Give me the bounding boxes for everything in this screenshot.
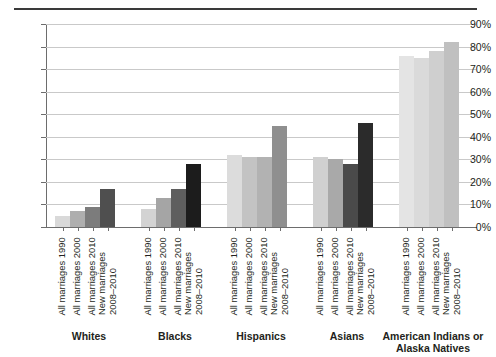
x-label-line: All marriages 1990 bbox=[142, 237, 153, 315]
bar-american_indians-0 bbox=[399, 56, 414, 227]
x-label-hispanics-2: All marriages 2010 bbox=[258, 237, 269, 315]
x-label-line: 2008–2010 bbox=[193, 252, 204, 315]
x-label-line: 2008–2010 bbox=[365, 252, 376, 315]
x-label-hispanics-0: All marriages 1990 bbox=[228, 237, 239, 315]
x-label-line: New marriages bbox=[355, 252, 366, 315]
bar-american_indians-3 bbox=[444, 42, 459, 227]
x-label-line: New marriages bbox=[269, 252, 280, 315]
x-label-line: All marriages 1990 bbox=[400, 237, 411, 315]
bar-american_indians-2 bbox=[429, 51, 444, 227]
y-tick-mark-0 bbox=[41, 227, 46, 228]
x-label-whites-2: All marriages 2010 bbox=[86, 237, 97, 315]
group-label-line: Alaska Natives bbox=[370, 342, 496, 354]
x-label-american_indians-2: All marriages 2010 bbox=[430, 237, 441, 315]
x-label-line: All marriages 2000 bbox=[243, 237, 254, 315]
x-label-line: All marriages 1990 bbox=[314, 237, 325, 315]
x-axis-line bbox=[46, 227, 477, 228]
bar-american_indians-1 bbox=[414, 58, 429, 227]
bar-asians-3 bbox=[358, 123, 373, 227]
x-label-asians-3: New marriages2008–2010 bbox=[355, 252, 376, 315]
bar-hispanics-3 bbox=[272, 126, 287, 228]
x-label-asians-0: All marriages 1990 bbox=[314, 237, 325, 315]
bar-asians-0 bbox=[313, 157, 328, 227]
bar-whites-3 bbox=[100, 189, 115, 227]
bar-hispanics-2 bbox=[257, 157, 272, 227]
x-label-line: New marriages bbox=[97, 252, 108, 315]
x-label-whites-3: New marriages2008–2010 bbox=[97, 252, 118, 315]
bar-whites-1 bbox=[70, 211, 85, 227]
x-label-asians-1: All marriages 2000 bbox=[329, 237, 340, 315]
x-label-american_indians-3: New marriages2008–2010 bbox=[441, 252, 462, 315]
group-label-line: American Indians or bbox=[370, 330, 496, 342]
x-label-blacks-3: New marriages2008–2010 bbox=[183, 252, 204, 315]
bar-whites-2 bbox=[85, 207, 100, 227]
x-label-line: All marriages 2010 bbox=[430, 237, 441, 315]
x-label-line: All marriages 2000 bbox=[329, 237, 340, 315]
x-label-line: 2008–2010 bbox=[451, 252, 462, 315]
bar-blacks-0 bbox=[141, 209, 156, 227]
x-label-line: 2008–2010 bbox=[107, 252, 118, 315]
bar-hispanics-0 bbox=[227, 155, 242, 227]
x-label-line: All marriages 2000 bbox=[71, 237, 82, 315]
x-label-line: All marriages 2010 bbox=[172, 237, 183, 315]
x-label-american_indians-0: All marriages 1990 bbox=[400, 237, 411, 315]
x-label-line: All marriages 1990 bbox=[228, 237, 239, 315]
bar-blacks-2 bbox=[171, 189, 186, 227]
x-label-asians-2: All marriages 2010 bbox=[344, 237, 355, 315]
x-label-line: New marriages bbox=[183, 252, 194, 315]
group-label-american_indians: American Indians orAlaska Natives bbox=[370, 330, 496, 354]
x-label-hispanics-1: All marriages 2000 bbox=[243, 237, 254, 315]
top-divider-rule bbox=[14, 8, 477, 10]
bars-area bbox=[46, 24, 476, 227]
x-label-american_indians-1: All marriages 2000 bbox=[415, 237, 426, 315]
group-labels: WhitesBlacksHispanicsAsiansAmerican Indi… bbox=[0, 330, 491, 357]
x-label-line: All marriages 2010 bbox=[258, 237, 269, 315]
x-label-line: All marriages 2010 bbox=[344, 237, 355, 315]
bar-blacks-1 bbox=[156, 198, 171, 227]
x-label-hispanics-3: New marriages2008–2010 bbox=[269, 252, 290, 315]
x-label-line: 2008–2010 bbox=[279, 252, 290, 315]
x-label-blacks-2: All marriages 2010 bbox=[172, 237, 183, 315]
x-label-line: All marriages 2000 bbox=[415, 237, 426, 315]
bar-blacks-3 bbox=[186, 164, 201, 227]
bar-whites-0 bbox=[55, 216, 70, 227]
bar-asians-2 bbox=[343, 164, 358, 227]
x-label-line: All marriages 2000 bbox=[157, 237, 168, 315]
x-label-blacks-1: All marriages 2000 bbox=[157, 237, 168, 315]
x-label-line: All marriages 1990 bbox=[56, 237, 67, 315]
bar-asians-1 bbox=[328, 159, 343, 227]
bar-hispanics-1 bbox=[242, 157, 257, 227]
x-label-whites-0: All marriages 1990 bbox=[56, 237, 67, 315]
x-label-line: New marriages bbox=[441, 252, 452, 315]
x-label-line: All marriages 2010 bbox=[86, 237, 97, 315]
x-label-whites-1: All marriages 2000 bbox=[71, 237, 82, 315]
x-axis-category-labels: All marriages 1990All marriages 2000All … bbox=[46, 231, 476, 315]
x-label-blacks-0: All marriages 1990 bbox=[142, 237, 153, 315]
